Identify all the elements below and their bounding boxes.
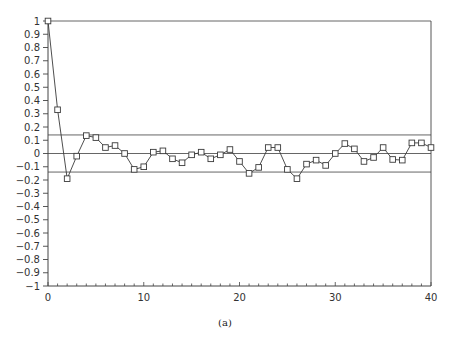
y-tick-label: −1 (25, 281, 40, 292)
square-marker (371, 155, 377, 161)
square-marker (218, 152, 224, 158)
y-tick-label: 0.3 (24, 108, 40, 119)
square-marker (390, 157, 396, 163)
square-marker (285, 167, 291, 173)
square-marker (112, 143, 118, 149)
square-marker (141, 164, 147, 170)
square-marker (74, 153, 80, 159)
y-tick-label: 1 (34, 16, 40, 27)
x-tick-label: 40 (425, 292, 438, 303)
square-marker (361, 159, 367, 165)
square-marker (313, 157, 319, 163)
y-tick-label: 0.5 (24, 82, 40, 93)
data-point-markers (45, 18, 434, 181)
x-tick-label: 0 (45, 292, 51, 303)
x-tick-label: 30 (329, 292, 342, 303)
x-axis-tick-labels: 010203040 (45, 292, 438, 303)
y-tick-label: 0.1 (24, 135, 40, 146)
square-marker (170, 156, 176, 162)
square-marker (409, 140, 415, 146)
y-tick-label: 0.8 (24, 42, 40, 53)
y-tick-label: −0.3 (16, 188, 40, 199)
y-tick-label: −0.8 (16, 254, 40, 265)
square-marker (352, 146, 358, 152)
y-tick-label: 0.6 (24, 69, 40, 80)
square-marker (189, 152, 195, 158)
square-marker (323, 163, 329, 169)
y-tick-label: −0.2 (16, 175, 40, 186)
y-tick-label: −0.7 (16, 241, 40, 252)
square-marker (332, 151, 338, 157)
square-marker (246, 171, 252, 177)
x-tick-label: 20 (233, 292, 246, 303)
square-marker (55, 107, 61, 113)
y-tick-label: 0.2 (24, 122, 40, 133)
y-tick-label: −0.6 (16, 228, 40, 239)
square-marker (399, 157, 405, 163)
square-marker (64, 176, 70, 182)
square-marker (208, 156, 214, 162)
y-tick-label: 0.7 (24, 55, 40, 66)
square-marker (227, 147, 233, 153)
figure-caption: (a) (218, 317, 232, 328)
square-marker (160, 148, 166, 154)
square-marker (275, 145, 281, 151)
square-marker (294, 176, 300, 182)
acf-chart: 10.90.80.70.60.50.40.30.20.10−0.1−0.2−0.… (0, 0, 451, 349)
y-tick-label: −0.1 (16, 161, 40, 172)
square-marker (84, 133, 90, 139)
square-marker (237, 159, 243, 165)
square-marker (45, 18, 51, 24)
square-marker (265, 145, 271, 151)
square-marker (380, 145, 386, 151)
y-tick-label: 0 (34, 148, 40, 159)
y-tick-label: 0.4 (24, 95, 40, 106)
square-marker (131, 167, 137, 173)
y-tick-label: −0.4 (16, 201, 40, 212)
square-marker (304, 161, 310, 167)
square-marker (198, 149, 204, 155)
square-marker (342, 141, 348, 147)
square-marker (151, 149, 157, 155)
square-marker (93, 135, 99, 141)
square-marker (122, 151, 128, 157)
square-marker (428, 145, 434, 151)
square-marker (103, 145, 109, 151)
x-tick-label: 10 (137, 292, 150, 303)
y-axis-tick-labels: 10.90.80.70.60.50.40.30.20.10−0.1−0.2−0.… (16, 16, 40, 292)
y-tick-label: −0.9 (16, 267, 40, 278)
y-tick-label: −0.5 (16, 214, 40, 225)
square-marker (256, 165, 262, 171)
square-marker (419, 140, 425, 146)
y-tick-label: 0.9 (24, 29, 40, 40)
square-marker (179, 160, 185, 166)
